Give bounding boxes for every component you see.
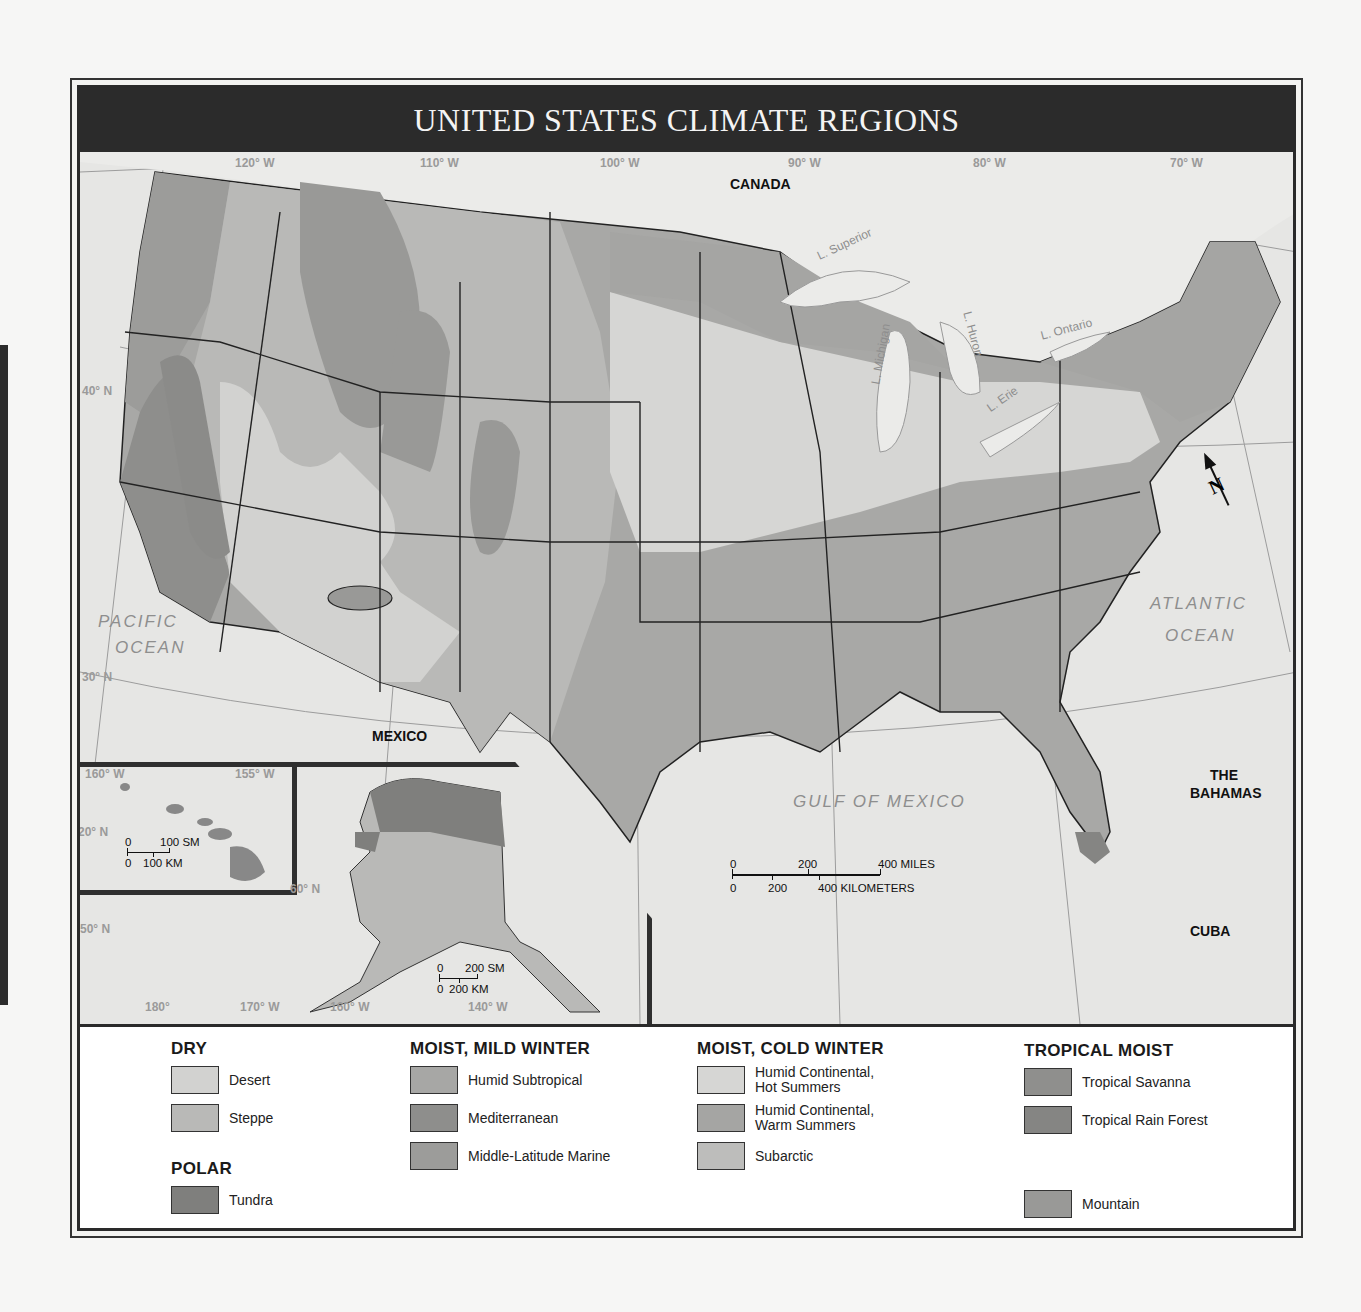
swatch-rainforest bbox=[1024, 1106, 1072, 1134]
legend-group-tropical: TROPICAL MOIST Tropical Savanna Tropical… bbox=[1024, 1041, 1208, 1143]
swatch-tundra bbox=[171, 1186, 219, 1214]
alaska-lon-180: 180° bbox=[145, 1000, 170, 1014]
page-edge-tab bbox=[0, 345, 8, 1005]
legend-item-desert: Desert bbox=[171, 1065, 273, 1095]
swatch-hc-hot bbox=[697, 1066, 745, 1094]
swatch-mediterranean bbox=[410, 1104, 458, 1132]
swatch-steppe bbox=[171, 1104, 219, 1132]
swatch-savanna bbox=[1024, 1068, 1072, 1096]
legend-group-moist-mild: MOIST, MILD WINTER Humid Subtropical Med… bbox=[410, 1039, 610, 1179]
legend-item-savanna: Tropical Savanna bbox=[1024, 1067, 1208, 1097]
legend-item-marine: Middle-Latitude Marine bbox=[410, 1141, 610, 1171]
label-mexico: MEXICO bbox=[372, 728, 427, 744]
legend-item-rainforest: Tropical Rain Forest bbox=[1024, 1105, 1208, 1135]
hawaii-lat-20: 20° N bbox=[80, 825, 108, 839]
title-bar: UNITED STATES CLIMATE REGIONS bbox=[80, 88, 1293, 152]
label-canada: CANADA bbox=[730, 176, 791, 192]
lon-label-80: 80° W bbox=[973, 156, 1006, 170]
lon-label-70: 70° W bbox=[1170, 156, 1203, 170]
legend-item-tundra: Tundra bbox=[171, 1185, 273, 1215]
lat-label-40: 40° N bbox=[82, 384, 112, 398]
legend: DRY Desert Steppe POLAR Tundra MOIST, MI… bbox=[80, 1027, 1293, 1228]
scale-bar-alaska: 0 200 SM 0 200 KM bbox=[437, 962, 527, 998]
label-atlantic-line2: OCEAN bbox=[1165, 626, 1235, 646]
legend-item-humid-subtropical: Humid Subtropical bbox=[410, 1065, 610, 1095]
legend-item-hc-hot: Humid Continental,Hot Summers bbox=[697, 1065, 884, 1095]
hawaii-inset-frame bbox=[80, 762, 297, 895]
swatch-mountain bbox=[1024, 1190, 1072, 1218]
lon-label-120: 120° W bbox=[235, 156, 274, 170]
alaska-lon-160: 160° W bbox=[330, 1000, 369, 1014]
legend-item-steppe: Steppe bbox=[171, 1103, 273, 1133]
scale-bar-main: 0 200 400 MILES 0 200 400 KILOMETERS bbox=[730, 858, 910, 898]
legend-group-dry: DRY Desert Steppe bbox=[171, 1039, 273, 1141]
alaska-lon-140: 140° W bbox=[468, 1000, 507, 1014]
legend-group-mountain: Mountain bbox=[1024, 1189, 1140, 1227]
label-pacific-line2: OCEAN bbox=[115, 638, 185, 658]
lat-label-30: 30° N bbox=[82, 670, 112, 684]
lon-label-90: 90° W bbox=[788, 156, 821, 170]
map-frame: UNITED STATES CLIMATE REGIONS bbox=[70, 78, 1303, 1238]
scale-bar-hawaii: 0 100 SM 0 100 KM bbox=[125, 836, 215, 872]
swatch-marine bbox=[410, 1142, 458, 1170]
region-mountain-az bbox=[328, 586, 392, 610]
legend-group-polar: POLAR Tundra bbox=[171, 1159, 273, 1223]
label-bahamas-line2: BAHAMAS bbox=[1190, 785, 1262, 801]
label-cuba: CUBA bbox=[1190, 923, 1230, 939]
swatch-desert bbox=[171, 1066, 219, 1094]
alaska-lat-50: 50° N bbox=[80, 922, 110, 936]
label-bahamas-line1: THE bbox=[1210, 767, 1238, 783]
legend-item-hc-warm: Humid Continental,Warm Summers bbox=[697, 1103, 884, 1133]
legend-group-moist-cold: MOIST, COLD WINTER Humid Continental,Hot… bbox=[697, 1039, 884, 1179]
label-atlantic-line1: ATLANTIC bbox=[1150, 594, 1247, 614]
swatch-humid-subtropical bbox=[410, 1066, 458, 1094]
hawaii-lon-160: 160° W bbox=[85, 767, 124, 781]
lon-label-100: 100° W bbox=[600, 156, 639, 170]
hawaii-lon-155: 155° W bbox=[235, 767, 274, 781]
swatch-subarctic bbox=[697, 1142, 745, 1170]
swatch-hc-warm bbox=[697, 1104, 745, 1132]
label-pacific-line1: PACIFIC bbox=[98, 612, 178, 632]
legend-item-subarctic: Subarctic bbox=[697, 1141, 884, 1171]
alaska-lat-60: 60° N bbox=[290, 882, 320, 896]
map-title: UNITED STATES CLIMATE REGIONS bbox=[413, 102, 959, 139]
legend-item-mountain: Mountain bbox=[1024, 1189, 1140, 1219]
label-gulf-of-mexico: GULF OF MEXICO bbox=[793, 792, 966, 812]
map-canvas: 120° W 110° W 100° W 90° W 80° W 70° W 4… bbox=[80, 152, 1293, 1027]
lon-label-110: 110° W bbox=[420, 156, 459, 170]
legend-item-mediterranean: Mediterranean bbox=[410, 1103, 610, 1133]
alaska-lon-170: 170° W bbox=[240, 1000, 279, 1014]
map-frame-inner: UNITED STATES CLIMATE REGIONS bbox=[77, 85, 1296, 1231]
